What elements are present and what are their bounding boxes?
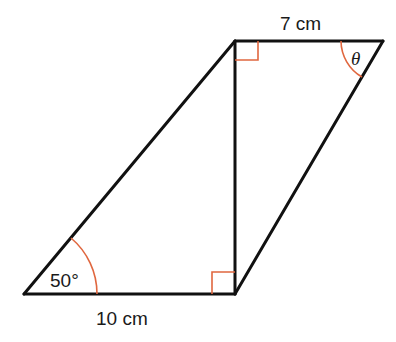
angle-marks bbox=[71, 41, 362, 294]
top-side-label: 7 cm bbox=[280, 13, 321, 34]
shape-edges bbox=[24, 41, 383, 294]
bottom-side-label: 10 cm bbox=[96, 308, 148, 329]
right-slant-edge bbox=[235, 41, 383, 294]
left-slant-edge bbox=[24, 41, 235, 294]
geometry-diagram: 7 cm 10 cm 50° θ bbox=[0, 0, 396, 342]
angle-50-label: 50° bbox=[50, 270, 79, 291]
right-angle-mark-bottom bbox=[212, 272, 235, 294]
right-angle-mark-top bbox=[235, 41, 258, 60]
theta-label: θ bbox=[351, 48, 360, 69]
